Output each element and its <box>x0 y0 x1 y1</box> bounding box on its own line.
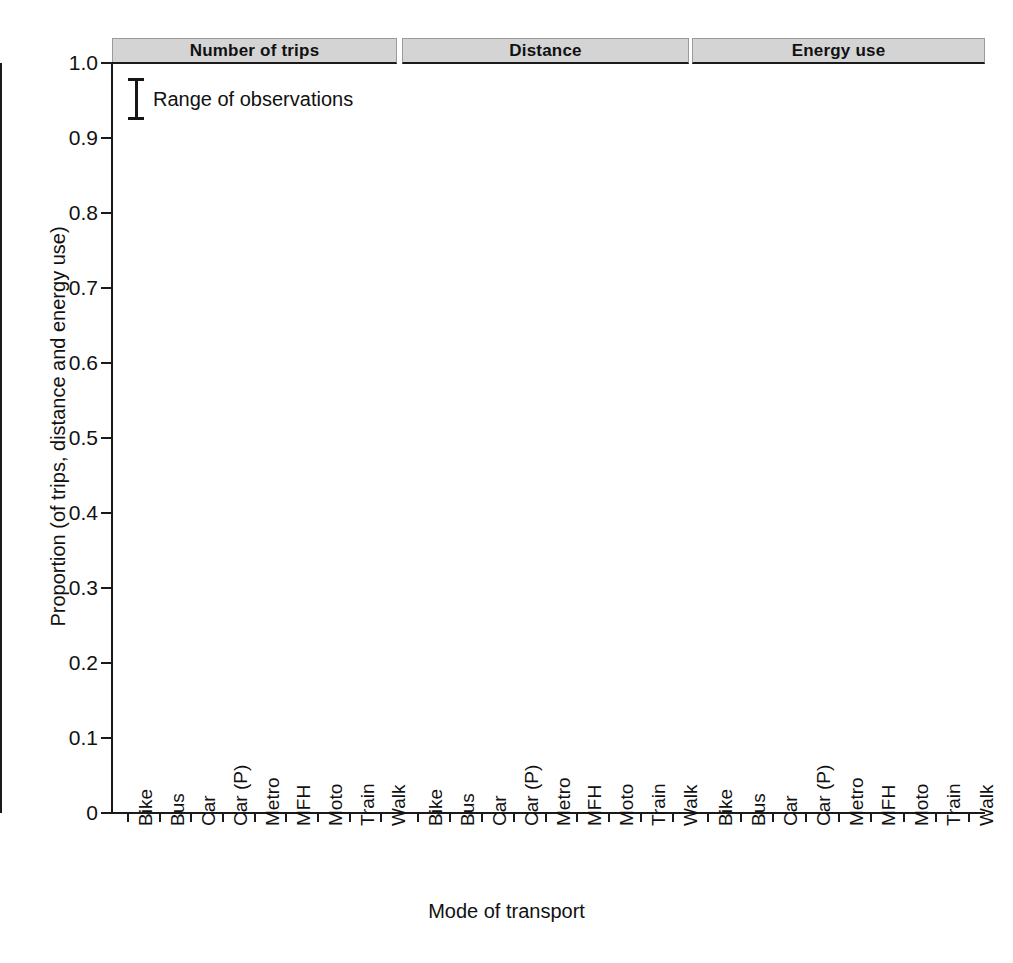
y-axis-tick-label: 0.3 <box>40 577 98 598</box>
panel-header-energy-use: Energy use <box>692 38 985 64</box>
x-axis-tick <box>545 813 547 822</box>
x-axis-label-car: Car <box>489 795 511 826</box>
x-axis-tick <box>285 813 287 822</box>
x-axis-label-walk: Walk <box>388 784 410 826</box>
x-axis-label-bike: Bike <box>715 789 737 826</box>
x-axis-tick <box>127 813 129 822</box>
x-axis-tick <box>576 813 578 822</box>
x-axis-tick <box>838 813 840 822</box>
plot-panel-energy-use <box>0 63 2 813</box>
x-axis-tick <box>349 813 351 822</box>
y-axis-tick <box>101 62 111 64</box>
x-axis-label-mfh: MFH <box>293 785 315 826</box>
x-axis-label-bus: Bus <box>457 793 479 826</box>
x-axis-tick <box>805 813 807 822</box>
y-axis-tick-labels: 00.10.20.30.40.50.60.70.80.91.0 <box>20 0 98 963</box>
x-axis-tick <box>222 813 224 822</box>
y-axis-tick <box>101 137 111 139</box>
y-axis-tick <box>101 437 111 439</box>
x-axis-label-car-p: Car (P) <box>813 765 835 826</box>
panel-header-label: Energy use <box>792 41 886 61</box>
y-axis-tick-label: 0.5 <box>40 427 98 448</box>
legend-label: Range of observations <box>153 88 353 111</box>
x-axis-label-train: Train <box>357 783 379 826</box>
y-axis-tick <box>101 662 111 664</box>
y-axis-tick <box>101 587 111 589</box>
y-axis-tick-label: 0.4 <box>40 502 98 523</box>
x-axis-tick <box>449 813 451 822</box>
x-axis-label-moto: Moto <box>325 784 347 826</box>
x-axis-label-car: Car <box>198 795 220 826</box>
x-axis-tick <box>640 813 642 822</box>
x-axis-label-mfh: MFH <box>584 785 606 826</box>
x-axis-label-train: Train <box>648 783 670 826</box>
y-axis-tick-label: 0.7 <box>40 277 98 298</box>
x-axis-tick <box>707 813 709 822</box>
panel-header-distance: Distance <box>402 38 689 64</box>
panel-header-number-of-trips: Number of trips <box>112 38 397 64</box>
y-axis-tick-label: 0.9 <box>40 127 98 148</box>
y-axis-tick-label: 0.8 <box>40 202 98 223</box>
y-axis-tick-label: 0.6 <box>40 352 98 373</box>
x-axis-label-moto: Moto <box>616 784 638 826</box>
x-axis-tick <box>903 813 905 822</box>
x-axis-tick <box>772 813 774 822</box>
y-axis-tick-label: 1.0 <box>40 52 98 73</box>
x-axis-label-bike: Bike <box>425 789 447 826</box>
x-axis-tick <box>672 813 674 822</box>
x-axis-tick <box>190 813 192 822</box>
x-axis-tick <box>317 813 319 822</box>
range-of-observations-icon <box>128 78 144 120</box>
x-axis-label-bus: Bus <box>748 793 770 826</box>
x-axis-tick <box>159 813 161 822</box>
x-axis-label-walk: Walk <box>976 784 998 826</box>
x-axis-tick <box>481 813 483 822</box>
panel-header-label: Number of trips <box>190 41 320 61</box>
x-axis-tick <box>935 813 937 822</box>
y-axis-tick <box>101 512 111 514</box>
x-axis-label-bike: Bike <box>135 789 157 826</box>
x-axis-tick <box>608 813 610 822</box>
legend: Range of observations <box>128 78 353 120</box>
x-axis-tick <box>254 813 256 822</box>
y-axis-line <box>111 62 113 814</box>
x-axis-label-metro: Metro <box>553 777 575 826</box>
y-axis-tick <box>101 362 111 364</box>
x-axis-label-walk: Walk <box>680 784 702 826</box>
x-axis-tick <box>968 813 970 822</box>
x-axis-label-metro: Metro <box>846 777 868 826</box>
x-axis-tick <box>740 813 742 822</box>
y-axis-tick <box>101 287 111 289</box>
y-axis-tick-label: 0 <box>40 802 98 823</box>
y-axis-tick-label: 0.2 <box>40 652 98 673</box>
y-axis-tick-label: 0.1 <box>40 727 98 748</box>
x-axis-label-bus: Bus <box>167 793 189 826</box>
y-axis-tick <box>101 737 111 739</box>
panel-header-label: Distance <box>509 41 581 61</box>
x-axis-tick <box>870 813 872 822</box>
x-axis-label-car-p: Car (P) <box>230 765 252 826</box>
x-axis-tick <box>380 813 382 822</box>
x-axis-label-car: Car <box>780 795 802 826</box>
y-axis-tick <box>101 212 111 214</box>
x-axis-tick <box>417 813 419 822</box>
x-axis-tick <box>513 813 515 822</box>
x-axis-title: Mode of transport <box>0 900 1013 923</box>
x-axis-label-train: Train <box>943 783 965 826</box>
x-axis-label-mfh: MFH <box>878 785 900 826</box>
x-axis-label-metro: Metro <box>262 777 284 826</box>
x-axis-label-car-p: Car (P) <box>521 765 543 826</box>
y-axis-tick <box>101 812 111 814</box>
x-axis-label-moto: Moto <box>911 784 933 826</box>
chart-figure: Proportion (of trips, distance and energ… <box>0 0 1013 963</box>
